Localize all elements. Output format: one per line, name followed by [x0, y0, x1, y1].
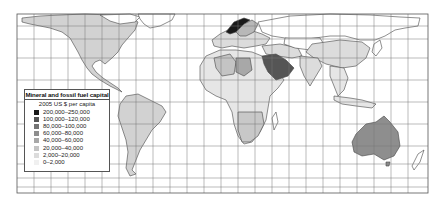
region-madagascar: [272, 112, 278, 130]
legend-item: 20,000–40,000: [34, 144, 109, 151]
legend-label: 2,000–20,000: [43, 152, 80, 159]
legend-label: 20,000–40,000: [43, 145, 83, 152]
legend-item: 2,000–20,000: [34, 152, 109, 159]
legend-item: 100,000–120,000: [34, 116, 109, 123]
legend-label: 200,000–250,000: [43, 109, 90, 116]
legend-label: 100,000–120,000: [43, 116, 90, 123]
legend-swatch: [34, 117, 39, 122]
legend-title: Mineral and fossil fuel capital: [25, 90, 109, 100]
legend-label: 40,000–60,000: [43, 137, 83, 144]
legend-subtitle: 2005 US $ per capita: [25, 101, 109, 107]
legend-swatch: [34, 131, 39, 136]
legend-swatch: [34, 138, 39, 143]
legend-swatch: [34, 153, 39, 158]
legend-item: 60,000–80,000: [34, 130, 109, 137]
legend-item: 200,000–250,000: [34, 109, 109, 116]
region-russia: [258, 14, 420, 40]
legend-label: 60,000–80,000: [43, 130, 83, 137]
legend-swatch: [34, 146, 39, 151]
region-southern-africa: [238, 112, 264, 142]
region-japan: [372, 40, 382, 56]
legend-swatch: [34, 124, 39, 129]
legend-swatch: [34, 160, 39, 165]
region-india: [300, 56, 322, 86]
region-south-america: [118, 94, 166, 176]
legend-label: 0–2,000: [43, 159, 65, 166]
region-southeast-asia: [330, 66, 348, 96]
legend-label: 80,000–100,000: [43, 123, 86, 130]
region-new-zealand: [412, 150, 424, 170]
legend-items: 200,000–250,000 100,000–120,000 80,000–1…: [25, 109, 109, 166]
region-australia: [352, 116, 400, 160]
region-north-america: [22, 14, 138, 92]
legend-item: 80,000–100,000: [34, 123, 109, 130]
legend: Mineral and fossil fuel capital 2005 US …: [24, 89, 110, 172]
legend-swatch: [34, 110, 39, 115]
legend-item: 40,000–60,000: [34, 137, 109, 144]
legend-item: 0–2,000: [34, 159, 109, 166]
